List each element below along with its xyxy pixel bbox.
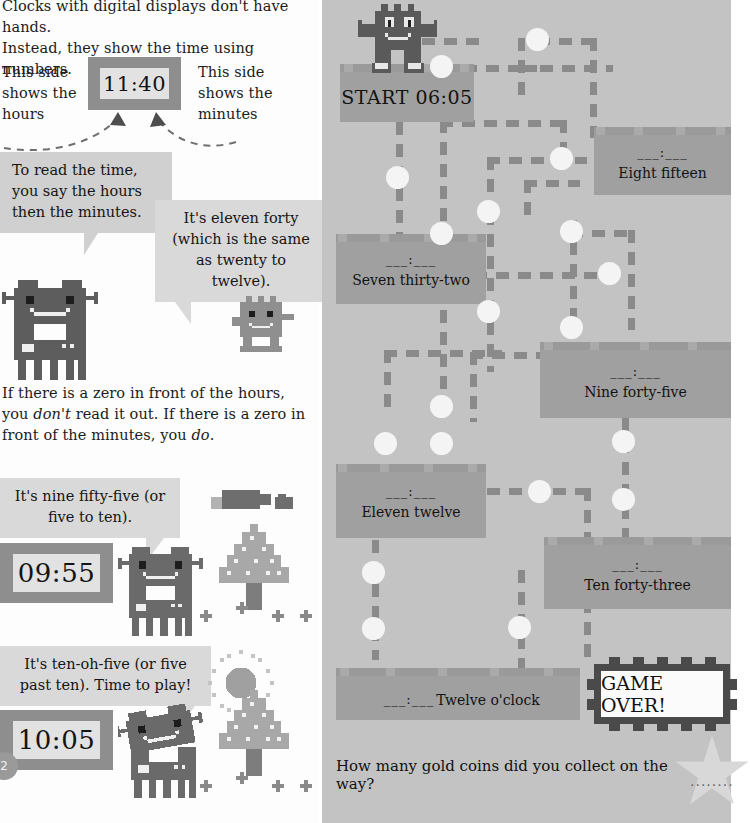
speech-bubble-eleven-forty: It's eleven forty (which is the same as … — [155, 200, 327, 302]
platform-label: Eleven twelve — [336, 504, 486, 520]
gold-coin — [430, 395, 453, 418]
platform-answer-blank[interactable]: ___:___ — [594, 145, 731, 160]
maze-platform-start[interactable]: START 06:05 — [340, 72, 474, 122]
platform-label: Seven thirty-two — [336, 272, 486, 288]
zero-rule-text-3: . — [210, 427, 215, 443]
monster-big-icon — [2, 272, 106, 380]
clock-screen: 09:55 — [13, 554, 100, 592]
gold-coin — [374, 432, 397, 455]
path-segment — [584, 600, 591, 662]
bubble-tail — [84, 233, 98, 255]
zero-rule-paragraph: If there is a zero in front of the hours… — [2, 383, 312, 446]
maze-platform-twelve-oclock[interactable]: ___:___ Twelve o'clock — [336, 676, 580, 720]
speech-bubble-ten-oh-five-text: It's ten-oh-five (or five past ten). Tim… — [20, 656, 191, 693]
gold-coin — [430, 432, 453, 455]
sparkles-row-icon — [196, 768, 316, 796]
speech-bubble-read-time: To read the time, you say the hours then… — [0, 152, 172, 233]
platform-answer-blank[interactable]: ___:___ — [336, 252, 486, 267]
clock-time-value: 10:05 — [18, 725, 95, 755]
zero-rule-emph-2: do — [191, 427, 209, 443]
path-segment — [487, 212, 494, 372]
gold-coin — [526, 28, 549, 51]
game-over-sign: GAME OVER! — [594, 664, 730, 724]
path-segment — [590, 38, 597, 138]
speech-bubble-nine-fifty-five-text: It's nine fifty-five (or five to ten). — [15, 488, 165, 525]
clock-screen: 11:40 — [100, 68, 169, 99]
path-segment — [372, 540, 379, 660]
gold-coin — [362, 617, 385, 640]
platform-label: Twelve o'clock — [396, 692, 580, 708]
platform-answer-blank[interactable]: ___:___ — [336, 484, 486, 499]
gold-coin — [430, 222, 453, 245]
path-segment — [524, 180, 580, 187]
speech-bubble-eleven-forty-text: It's eleven forty (which is the same as … — [172, 210, 310, 289]
gold-coin — [477, 300, 500, 323]
speech-bubble-ten-oh-five: It's ten-oh-five (or five past ten). Tim… — [0, 646, 211, 706]
maze-platform-eleven-twelve[interactable]: ___:___ Eleven twelve — [336, 472, 486, 538]
gold-coin — [598, 262, 621, 285]
answer-dots[interactable]: ........ — [690, 773, 734, 789]
coins-question: How many gold coins did you collect on t… — [336, 757, 686, 793]
clock-screen: 10:05 — [13, 721, 100, 759]
maze-panel: START 06:05 ___:___ Eight fifteen ___:__… — [322, 0, 731, 823]
gold-coin — [508, 616, 531, 639]
clock-time-value: 09:55 — [18, 558, 95, 588]
gold-coin — [528, 480, 551, 503]
monster-small-icon — [228, 296, 300, 358]
gold-coin — [560, 316, 583, 339]
maze-platform-ten-forty-three[interactable]: ___:___ Ten forty-three — [544, 545, 731, 609]
gold-coin — [362, 561, 385, 584]
digital-clock-1140: 11:40 — [88, 57, 181, 110]
digital-clock-0955: 09:55 — [0, 543, 113, 603]
bubble-tail — [175, 302, 191, 324]
path-segment — [384, 350, 391, 412]
pixel-cloud-icon — [208, 486, 296, 516]
platform-label: Ten forty-three — [544, 577, 731, 593]
platform-answer-blank[interactable]: ___:___ — [540, 364, 731, 379]
gold-coin — [550, 147, 573, 170]
gold-coin — [477, 200, 500, 223]
path-segment — [628, 230, 635, 330]
path-segment — [518, 65, 613, 72]
platform-label: Eight fifteen — [594, 165, 731, 181]
speech-bubble-nine-fifty-five: It's nine fifty-five (or five to ten). — [0, 478, 180, 538]
clock-time-value: 11:40 — [103, 72, 166, 96]
maze-platform-seven-thirty-two[interactable]: ___:___ Seven thirty-two — [336, 242, 486, 304]
path-segment — [470, 352, 477, 422]
speech-bubble-read-time-text: To read the time, you say the hours then… — [12, 162, 142, 220]
maze-platform-nine-forty-five[interactable]: ___:___ Nine forty-five — [540, 350, 731, 418]
gold-coin — [386, 166, 409, 189]
sparkles-row-icon — [196, 598, 316, 626]
platform-start-label: START 06:05 — [340, 86, 474, 108]
zero-rule-emph-1: don't — [33, 406, 71, 422]
maze-platform-eight-fifteen[interactable]: ___:___ Eight fifteen — [594, 135, 731, 195]
game-over-label: GAME OVER! — [601, 672, 723, 716]
pointer-arrows — [0, 108, 318, 152]
gold-coin — [560, 220, 583, 243]
platform-answer-blank[interactable]: ___:___ — [544, 557, 731, 572]
gold-coin — [612, 430, 635, 453]
monster-player-icon — [358, 4, 444, 76]
intro-line-1: Clocks with digital displays don't have … — [2, 0, 314, 38]
gold-coin — [612, 488, 635, 511]
platform-label: Nine forty-five — [540, 384, 731, 400]
